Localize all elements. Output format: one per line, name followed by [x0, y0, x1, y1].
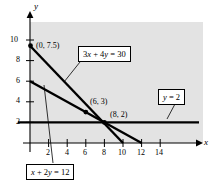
y-axis-arrow	[27, 11, 34, 18]
eq1-mid: + 4	[91, 49, 104, 59]
x-axis-label: x	[204, 137, 208, 147]
y-tick-6: 6	[16, 76, 20, 85]
marker-point-0-7p5	[28, 43, 33, 48]
eq3-end: = 2	[167, 92, 180, 102]
y-axis-label: y	[34, 1, 38, 11]
annotation-point-8-2: (8, 2)	[110, 110, 127, 119]
marker-point-6-3	[83, 110, 88, 115]
x-tick-6: 6	[83, 148, 87, 157]
eq2-mid: + 2	[35, 167, 48, 177]
equation-box-x-2y-12: x + 2y = 12	[26, 164, 74, 180]
y-tick-2: 2	[16, 117, 20, 126]
annotation-point-6-3: (6, 3)	[90, 97, 107, 106]
figure-container: y x 10 8 6 4 2 2 4 6 8 10 12 14 (0, 7.5)…	[0, 0, 214, 189]
x-tick-10: 10	[118, 148, 126, 157]
y-tick-4: 4	[16, 96, 20, 105]
equation-box-y-2: y = 2	[158, 89, 185, 105]
y-tick-10: 10	[10, 35, 18, 44]
y-tick-8: 8	[16, 55, 20, 64]
x-tick-14: 14	[155, 148, 163, 157]
x-tick-2: 2	[46, 148, 50, 157]
x-tick-12: 12	[137, 148, 145, 157]
x-tick-4: 4	[65, 148, 69, 157]
eq1-end: = 30	[108, 49, 126, 59]
annotation-point-0-7p5: (0, 7.5)	[36, 41, 59, 50]
eq2-end: = 12	[52, 167, 70, 177]
x-tick-8: 8	[102, 148, 106, 157]
equation-box-3x-4y-30: 3x + 4y = 30	[78, 46, 131, 62]
marker-point-8-2	[102, 120, 107, 125]
